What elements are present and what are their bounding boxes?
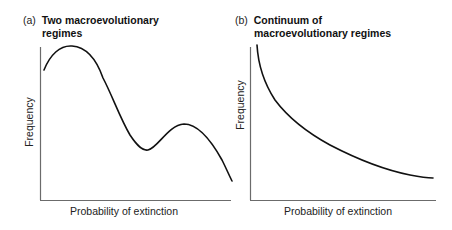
plots-canvas	[0, 0, 452, 230]
panel-b-axes	[250, 47, 436, 201]
panel-a-axes	[40, 47, 231, 201]
panel-b-curve	[257, 45, 433, 178]
panel-a-curve	[44, 46, 232, 181]
